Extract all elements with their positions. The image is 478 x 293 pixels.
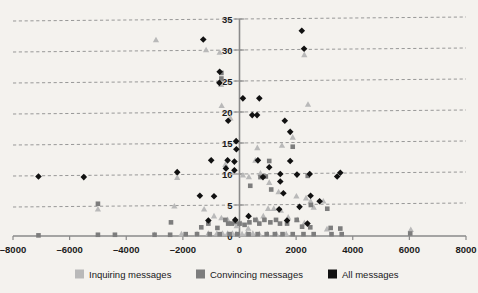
data-point bbox=[268, 220, 273, 225]
data-point bbox=[207, 232, 212, 237]
data-point bbox=[174, 169, 181, 176]
data-point bbox=[80, 174, 87, 181]
data-point bbox=[325, 206, 330, 211]
data-point bbox=[287, 129, 294, 136]
data-point bbox=[195, 232, 200, 237]
data-point bbox=[290, 144, 295, 149]
legend: Inquiring messagesConvincing messagesAll… bbox=[75, 269, 399, 280]
data-point bbox=[274, 218, 279, 223]
data-point bbox=[208, 157, 215, 164]
data-point bbox=[262, 218, 267, 223]
data-point bbox=[266, 164, 273, 171]
data-point bbox=[280, 190, 287, 197]
x-tick-label: –8000 bbox=[0, 244, 26, 255]
data-point bbox=[246, 174, 252, 180]
data-point bbox=[113, 232, 118, 237]
legend-label: Convincing messages bbox=[210, 269, 303, 280]
legend-label: All messages bbox=[342, 269, 399, 280]
data-point bbox=[211, 213, 217, 219]
x-tick-label: 8000 bbox=[455, 244, 476, 255]
data-point bbox=[183, 232, 188, 237]
y-tick-label: 35 bbox=[222, 14, 233, 25]
legend-swatch-square bbox=[196, 270, 205, 279]
data-point bbox=[264, 232, 269, 237]
data-point bbox=[201, 206, 207, 212]
data-point bbox=[254, 145, 260, 151]
data-point bbox=[200, 36, 207, 43]
data-point bbox=[290, 232, 295, 237]
data-point bbox=[301, 232, 306, 237]
x-tick-label: –6000 bbox=[56, 244, 82, 255]
data-point bbox=[293, 193, 299, 199]
x-tick-label: 0 bbox=[237, 244, 242, 255]
data-point bbox=[240, 95, 247, 102]
data-point bbox=[307, 192, 314, 199]
data-point bbox=[273, 232, 278, 237]
legend-swatch-diamond bbox=[328, 270, 337, 279]
legend-label: Inquiring messages bbox=[89, 269, 172, 280]
data-point bbox=[282, 117, 289, 124]
data-point bbox=[256, 95, 263, 102]
data-point bbox=[287, 158, 294, 165]
data-point bbox=[199, 225, 204, 230]
data-point bbox=[265, 205, 271, 211]
data-point bbox=[233, 146, 240, 153]
data-point bbox=[316, 198, 323, 205]
data-point bbox=[227, 232, 232, 237]
data-point bbox=[246, 232, 251, 237]
y-tick-group: 05101520253035 bbox=[222, 14, 245, 242]
data-point bbox=[152, 232, 157, 237]
data-point bbox=[255, 232, 260, 237]
data-point bbox=[279, 142, 285, 148]
data-point bbox=[197, 192, 204, 199]
data-point bbox=[408, 231, 413, 236]
data-point bbox=[231, 158, 238, 165]
data-point bbox=[247, 220, 252, 225]
data-point bbox=[254, 112, 261, 119]
y-tick-label: 30 bbox=[222, 45, 233, 56]
data-point bbox=[257, 221, 262, 226]
data-point bbox=[153, 37, 159, 43]
data-point bbox=[217, 232, 222, 237]
data-point bbox=[266, 179, 272, 185]
data-point bbox=[248, 183, 253, 188]
data-point bbox=[36, 233, 41, 238]
x-tick-label: –4000 bbox=[113, 244, 139, 255]
series-convincing-messages bbox=[36, 71, 412, 238]
data-point bbox=[300, 224, 305, 229]
x-tick-group: –8000–6000–4000–200002000400060008000 bbox=[0, 236, 477, 255]
data-point bbox=[237, 221, 242, 226]
data-point bbox=[96, 232, 101, 237]
data-point bbox=[205, 217, 212, 224]
data-point bbox=[211, 193, 218, 200]
y-tick-label: 5 bbox=[227, 200, 233, 211]
data-point bbox=[309, 203, 314, 208]
x-tick-label: 4000 bbox=[342, 244, 363, 255]
data-point bbox=[278, 221, 283, 226]
data-point bbox=[338, 226, 343, 231]
legend-swatch-triangle bbox=[75, 270, 84, 279]
data-point bbox=[328, 226, 333, 231]
data-point bbox=[168, 232, 173, 237]
data-point bbox=[305, 101, 311, 107]
data-point bbox=[277, 171, 284, 178]
data-point bbox=[311, 232, 316, 237]
data-point bbox=[96, 201, 101, 206]
data-point bbox=[253, 218, 258, 223]
data-point bbox=[235, 232, 240, 237]
data-point bbox=[203, 47, 209, 53]
data-point bbox=[215, 226, 220, 231]
x-tick-label: –2000 bbox=[170, 244, 196, 255]
data-point bbox=[290, 134, 296, 140]
x-tick-label: 6000 bbox=[399, 244, 420, 255]
data-point bbox=[242, 223, 247, 228]
data-point bbox=[339, 232, 344, 237]
data-point bbox=[245, 213, 252, 220]
data-point bbox=[280, 232, 285, 237]
data-point bbox=[269, 187, 274, 192]
x-tick-label: 2000 bbox=[286, 244, 307, 255]
data-point bbox=[271, 205, 277, 211]
data-point bbox=[267, 159, 272, 164]
chart-canvas: –8000–6000–4000–200002000400060008000051… bbox=[0, 0, 478, 293]
scatter-chart: –8000–6000–4000–200002000400060008000051… bbox=[0, 0, 478, 293]
